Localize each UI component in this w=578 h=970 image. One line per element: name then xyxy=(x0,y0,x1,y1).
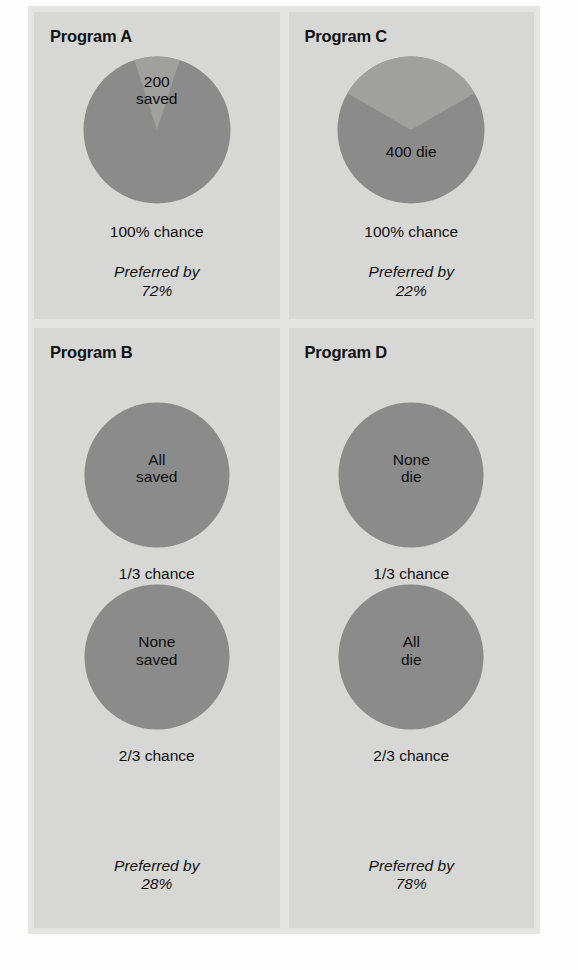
pie-chart-program-a-1: 200 saved xyxy=(82,55,232,205)
pie-chart-program-b-2: None saved xyxy=(83,583,231,731)
chance-label: 1/3 chance xyxy=(373,565,449,584)
pie-chart-program-c-1: 400 die xyxy=(336,55,486,205)
pie-svg xyxy=(83,401,231,549)
pie-svg xyxy=(83,583,231,731)
panel-title-program-d: Program D xyxy=(305,344,388,361)
panel-program-a: Program A 200 saved 100% chance Preferre… xyxy=(34,12,280,319)
outcome-block: All saved 1/3 chance xyxy=(83,401,231,584)
chance-label: 100% chance xyxy=(364,223,458,242)
outcome-block: 200 saved 100% chance xyxy=(82,45,232,242)
pie-svg xyxy=(336,55,486,205)
chance-label: 1/3 chance xyxy=(119,565,195,584)
panel-program-c: Program C 400 die 100% chance Preferred … xyxy=(289,12,535,319)
preferred-label-program-a: Preferred by 72% xyxy=(114,263,199,300)
panel-title-program-a: Program A xyxy=(50,28,132,45)
preferred-label-program-b: Preferred by 28% xyxy=(34,857,280,894)
panel-program-d: Program D None die 1/3 chance All die 2/… xyxy=(289,328,535,928)
panel-program-b: Program B All saved 1/3 chance None save… xyxy=(34,328,280,928)
pie-svg xyxy=(337,401,485,549)
preferred-label-program-d: Preferred by 78% xyxy=(289,857,535,894)
pie-chart-program-d-2: All die xyxy=(337,583,485,731)
outcome-block: None die 1/3 chance xyxy=(337,401,485,584)
chance-label: 2/3 chance xyxy=(119,747,195,766)
outcome-block: None saved 2/3 chance xyxy=(83,583,231,766)
chance-label: 2/3 chance xyxy=(373,747,449,766)
pie-svg xyxy=(82,55,232,205)
chance-label: 100% chance xyxy=(110,223,204,242)
pie-svg xyxy=(337,583,485,731)
outcome-block: 400 die 100% chance xyxy=(336,45,486,242)
pie-chart-program-b-1: All saved xyxy=(83,401,231,549)
preferred-label-program-c: Preferred by 22% xyxy=(369,263,454,300)
pie-chart-program-d-1: None die xyxy=(337,401,485,549)
panel-title-program-b: Program B xyxy=(50,344,133,361)
outcome-block: All die 2/3 chance xyxy=(337,583,485,766)
framing-effect-figure: Program A 200 saved 100% chance Preferre… xyxy=(28,6,540,934)
panel-title-program-c: Program C xyxy=(305,28,388,45)
